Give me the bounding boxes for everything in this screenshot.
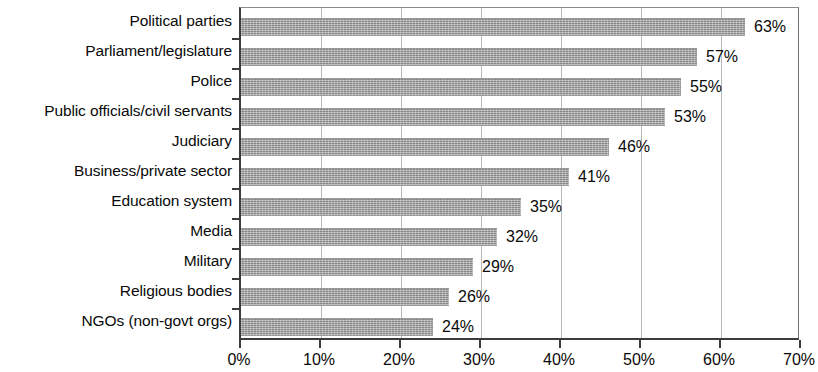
bar [241, 258, 473, 276]
x-axis-tick-label: 10% [303, 350, 335, 370]
bar [241, 18, 745, 36]
bar-value-label: 35% [530, 196, 562, 218]
y-axis-tick [232, 128, 241, 130]
x-axis: 0%10%20%30%40%50%60%70% [239, 340, 799, 372]
category-label: Political parties [0, 13, 232, 29]
x-axis-tick-label: 70% [783, 350, 815, 370]
bar-value-label: 55% [690, 76, 722, 98]
bar [241, 138, 609, 156]
x-axis-tick-label: 20% [383, 350, 415, 370]
bar-value-label: 57% [706, 46, 738, 68]
category-label: Public officials/civil servants [0, 103, 232, 119]
category-label: Judiciary [0, 133, 232, 149]
bar-value-label: 63% [754, 16, 786, 38]
y-axis-tick [232, 68, 241, 70]
y-axis-tick [232, 308, 241, 310]
x-axis-tick-label: 40% [543, 350, 575, 370]
bar-row: 35% [241, 193, 801, 223]
bar-value-label: 24% [442, 316, 474, 338]
y-axis-tick [232, 218, 241, 220]
y-axis-tick [232, 158, 241, 160]
x-axis-tick [399, 340, 401, 348]
bar [241, 318, 433, 336]
x-axis-tick [319, 340, 321, 348]
x-axis-tick [479, 340, 481, 348]
x-axis-tick-label: 30% [463, 350, 495, 370]
bar-row: 32% [241, 223, 801, 253]
bar-row: 53% [241, 103, 801, 133]
bar-value-label: 53% [674, 106, 706, 128]
x-axis-tick [239, 340, 241, 348]
bar-value-label: 26% [458, 286, 490, 308]
bar-value-label: 46% [618, 136, 650, 158]
bar-row: 26% [241, 283, 801, 313]
category-label: NGOs (non-govt orgs) [0, 313, 232, 329]
bar-row: 57% [241, 43, 801, 73]
category-label: Military [0, 253, 232, 269]
bar [241, 78, 681, 96]
x-axis-tick [559, 340, 561, 348]
category-axis: Political partiesParliament/legislatureP… [0, 7, 232, 340]
bar [241, 198, 521, 216]
bar-row: 41% [241, 163, 801, 193]
x-axis-tick [799, 340, 801, 348]
x-axis-tick-label: 50% [623, 350, 655, 370]
y-axis-tick [232, 188, 241, 190]
category-label: Police [0, 73, 232, 89]
bar-value-label: 41% [578, 166, 610, 188]
bar [241, 48, 697, 66]
category-label: Parliament/legislature [0, 43, 232, 59]
bar-row: 29% [241, 253, 801, 283]
category-label: Media [0, 223, 232, 239]
x-axis-tick-label: 0% [227, 350, 250, 370]
bar-row: 46% [241, 133, 801, 163]
category-label: Education system [0, 193, 232, 209]
category-label: Business/private sector [0, 163, 232, 179]
bar-row: 55% [241, 73, 801, 103]
bar-row: 24% [241, 313, 801, 343]
x-axis-tick-label: 60% [703, 350, 735, 370]
x-axis-tick [639, 340, 641, 348]
y-axis-tick [232, 98, 241, 100]
bar-value-label: 29% [482, 256, 514, 278]
category-label: Religious bodies [0, 283, 232, 299]
bar-row: 63% [241, 13, 801, 43]
y-axis-tick [232, 278, 241, 280]
bar [241, 228, 497, 246]
bar [241, 168, 569, 186]
bar [241, 108, 665, 126]
x-axis-tick [719, 340, 721, 348]
bar-value-label: 32% [506, 226, 538, 248]
bar-chart: Political partiesParliament/legislatureP… [0, 0, 818, 372]
bar [241, 288, 449, 306]
plot-area: 63%57%55%53%46%41%35%32%29%26%24% [239, 7, 799, 340]
y-axis-tick [232, 248, 241, 250]
y-axis-tick [232, 38, 241, 40]
